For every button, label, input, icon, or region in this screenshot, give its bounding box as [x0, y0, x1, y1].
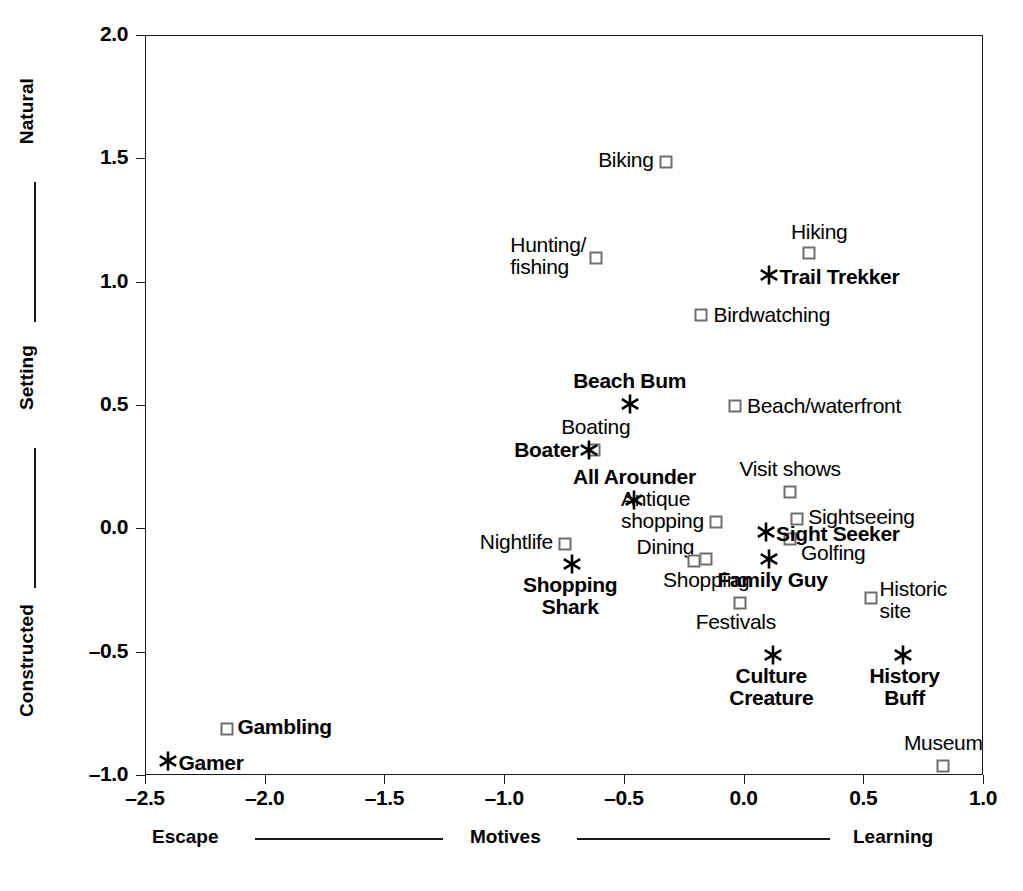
x-axis-rule-right	[577, 838, 830, 840]
activity-square-marker	[733, 597, 746, 610]
activity-label: Museum	[904, 732, 983, 754]
x-axis-label: Motives	[470, 826, 541, 848]
activity-square-marker	[559, 538, 572, 551]
activity-label: Gambling	[237, 716, 331, 738]
activity-label: Golfing	[801, 542, 865, 564]
y-axis-top-anchor: Natural	[16, 78, 38, 144]
activity-label: Biking	[598, 149, 653, 171]
segment-star-marker	[623, 489, 645, 511]
activity-label: Beach/waterfront	[747, 395, 901, 417]
x-axis-title: Escape Motives Learning	[0, 826, 1023, 866]
x-tick-label: –0.5	[584, 786, 664, 810]
x-tick-label: –2.5	[105, 786, 185, 810]
segment-star-marker	[755, 521, 777, 543]
segment-label: Trail Trekker	[780, 266, 900, 288]
x-tick-label: 0.5	[823, 786, 903, 810]
activity-label: Visit shows	[739, 458, 840, 480]
x-tick-mark	[504, 775, 505, 784]
activity-square-marker	[937, 760, 950, 773]
activity-square-marker	[590, 252, 603, 265]
segment-star-marker	[892, 644, 914, 666]
y-tick-mark	[136, 158, 145, 159]
perceptual-map-chart: Natural Setting Constructed 2.01.51.00.5…	[0, 0, 1023, 891]
segment-label: Culture Creature	[729, 665, 813, 709]
y-tick-label: 2.0	[66, 22, 128, 46]
x-tick-mark	[624, 775, 625, 784]
segment-star-marker	[619, 393, 641, 415]
activity-label: Hiking	[791, 221, 848, 243]
activity-label: Nightlife	[480, 531, 553, 553]
y-axis-rule-top	[34, 182, 36, 322]
x-tick-mark	[265, 775, 266, 784]
activity-square-marker	[695, 308, 708, 321]
y-tick-label: 1.0	[66, 269, 128, 293]
activity-square-marker	[865, 592, 878, 605]
y-tick-label: 0.5	[66, 392, 128, 416]
segment-label: Beach Bum	[573, 370, 686, 392]
x-tick-label: –1.5	[344, 786, 424, 810]
x-tick-mark	[863, 775, 864, 784]
activity-label: Birdwatching	[713, 304, 830, 326]
activity-square-marker	[700, 552, 713, 565]
y-tick-label: 1.5	[66, 145, 128, 169]
x-tick-mark	[384, 775, 385, 784]
activity-label: Festivals	[696, 611, 776, 633]
y-axis-rule-bottom	[34, 448, 36, 588]
y-tick-label: 0.0	[66, 515, 128, 539]
activity-square-marker	[709, 515, 722, 528]
activity-square-marker	[803, 247, 816, 260]
y-tick-mark	[136, 405, 145, 406]
y-axis-bottom-anchor: Constructed	[16, 604, 38, 717]
segment-label: Shopping Shark	[523, 574, 617, 618]
segment-label: Family Guy	[717, 569, 827, 591]
activity-label: Historic site	[879, 578, 947, 622]
x-tick-mark	[145, 775, 146, 784]
activity-square-marker	[688, 555, 701, 568]
activity-square-marker	[728, 400, 741, 413]
segment-star-marker	[758, 264, 780, 286]
x-axis-right-anchor: Learning	[853, 826, 933, 848]
segment-star-marker	[561, 553, 583, 575]
segment-star-marker	[578, 439, 600, 461]
x-tick-mark	[983, 775, 984, 784]
y-axis-title: Natural Setting Constructed	[0, 0, 50, 775]
activity-square-marker	[784, 486, 797, 499]
y-tick-mark	[136, 528, 145, 529]
y-tick-label: –1.0	[66, 762, 128, 786]
y-tick-mark	[136, 652, 145, 653]
segment-star-marker	[758, 548, 780, 570]
x-tick-label: –1.0	[464, 786, 544, 810]
y-tick-label: –0.5	[66, 639, 128, 663]
x-tick-label: –2.0	[225, 786, 305, 810]
segment-star-marker	[762, 644, 784, 666]
y-tick-mark	[136, 282, 145, 283]
activity-label: Hunting/ fishing	[510, 234, 586, 278]
segment-label: Gamer	[179, 752, 244, 774]
segment-star-marker	[157, 750, 179, 772]
activity-square-marker	[659, 155, 672, 168]
x-axis-left-anchor: Escape	[152, 826, 219, 848]
activity-label: Boating	[561, 416, 630, 438]
y-tick-mark	[136, 775, 145, 776]
segment-label: Sight Seeker	[776, 523, 900, 545]
x-tick-mark	[744, 775, 745, 784]
plot-area: BikingHikingHunting/ fishingBirdwatching…	[145, 35, 983, 775]
x-tick-label: 0.0	[704, 786, 784, 810]
y-axis-label: Setting	[16, 345, 38, 410]
x-tick-label: 1.0	[943, 786, 1023, 810]
segment-label: Boater	[514, 439, 579, 461]
activity-label: Dining	[637, 536, 695, 558]
activity-square-marker	[221, 723, 234, 736]
y-tick-mark	[136, 35, 145, 36]
x-axis-rule-left	[255, 838, 443, 840]
segment-label: All Arounder	[573, 466, 696, 488]
segment-label: History Buff	[869, 665, 939, 709]
